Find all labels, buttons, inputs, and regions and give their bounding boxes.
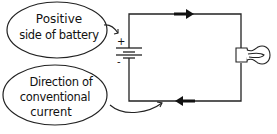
leader-arrows [104,25,162,113]
callout-direction-line3: current [18,107,84,119]
callout-direction-line1: Direction of [18,77,104,89]
callout-direction-line2: conventional [12,92,98,104]
light-bulb-icon [236,46,270,64]
circuit-wire [129,14,241,101]
callout-positive-line1: Positive [26,13,92,25]
current-arrow-left-icon [175,96,195,106]
callout-positive-line2: side of battery [13,30,105,42]
battery-minus-sign: - [117,57,121,67]
current-arrow-right-icon [174,9,194,19]
battery-plus-sign: + [117,37,125,47]
